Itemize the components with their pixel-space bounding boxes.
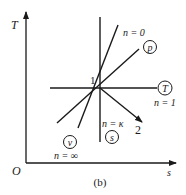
n0-label: n = 0 <box>123 27 145 38</box>
state-2-label: 2 <box>135 123 141 137</box>
svg-text:p: p <box>147 42 153 53</box>
circled-s-marker: s <box>106 131 119 144</box>
figure-caption: (b) <box>94 176 107 189</box>
x-axis-label: s <box>167 167 171 178</box>
circled-v-marker: v <box>64 136 77 149</box>
axes: T s O <box>11 12 176 178</box>
circled-p-marker: p <box>144 41 157 54</box>
svg-text:T: T <box>162 83 169 94</box>
isochoric-line <box>78 25 118 128</box>
y-axis-label: T <box>11 18 19 32</box>
nkappa-label: n = κ <box>102 118 124 129</box>
isobaric-line <box>57 49 139 123</box>
state-1-label: 1 <box>90 74 96 86</box>
ninf-label: n = ∞ <box>54 150 78 161</box>
n1-label: n = 1 <box>154 97 176 108</box>
ts-process-diagram: T s O 1 2 n = 0 p T n = 1 n = κ s <box>0 0 186 195</box>
svg-text:v: v <box>68 137 73 148</box>
process-1-2-line <box>100 88 142 122</box>
circled-t-marker: T <box>158 81 172 95</box>
svg-text:s: s <box>110 132 114 143</box>
origin-label: O <box>12 164 21 178</box>
